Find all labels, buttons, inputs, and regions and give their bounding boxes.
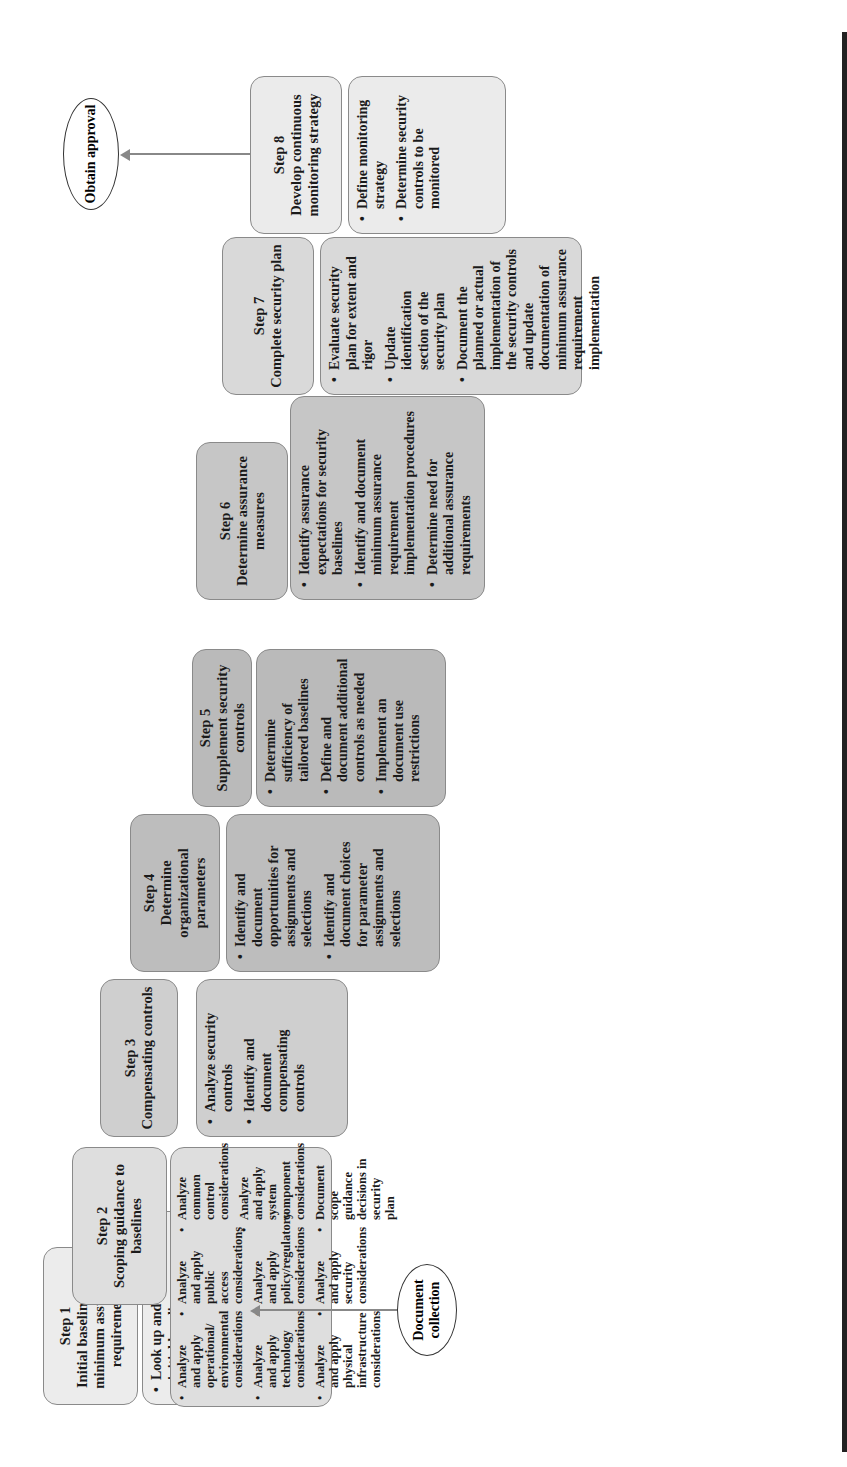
step-5-header: Step 5 Supplement security controls xyxy=(192,649,252,807)
step-number: Step 1 xyxy=(57,1307,74,1345)
task-item: Document the planned or actual implement… xyxy=(455,246,604,382)
task-item: Identify and document minimum assurance … xyxy=(353,405,419,587)
document-collection-node: Document collection xyxy=(397,1264,457,1356)
step-number: Step 6 xyxy=(217,502,234,540)
step-2-tasks: Analyze and apply operational/ environme… xyxy=(170,1147,332,1407)
obtain-approval-node: Obtain approval xyxy=(63,98,119,210)
node-label: Document collection xyxy=(411,1265,443,1355)
task-item: Analyze security controls xyxy=(203,988,236,1124)
step-3-header: Step 3 Compensating controls xyxy=(100,979,178,1137)
task-item: Analyze and apply operational/ environme… xyxy=(175,1322,245,1400)
step-3-tasks: Analyze security controls Identify and d… xyxy=(196,979,348,1137)
task-item: Identify assurance expectations for secu… xyxy=(297,405,347,587)
step-6-header: Step 6 Determine assurance measures xyxy=(196,442,288,600)
task-item: Update identification section of the sec… xyxy=(383,246,449,382)
task-item: Analyze and apply system component consi… xyxy=(237,1154,307,1232)
arrow-head-icon xyxy=(120,149,130,161)
step-number: Step 5 xyxy=(197,709,214,747)
step-title: Scoping guidance to baselines xyxy=(111,1148,145,1304)
task-item: Define monitoring strategy xyxy=(355,85,388,221)
step-8-header: Step 8 Develop continuous monitoring str… xyxy=(250,76,342,234)
connector-line xyxy=(130,154,250,156)
step-number: Step 7 xyxy=(251,297,268,335)
task-item: Document scope guidance decisions in sec… xyxy=(313,1154,397,1232)
task-item: Determine sufficiency of tailored baseli… xyxy=(263,658,313,794)
arrow-head-icon xyxy=(250,1305,260,1317)
task-item: Evaluate security plan for extent and ri… xyxy=(327,246,377,382)
task-item: Analyze and apply physical infrastructur… xyxy=(313,1322,383,1400)
step-4-tasks: Identify and document opportunities for … xyxy=(226,814,440,972)
task-item: Implement an document use restrictions xyxy=(374,658,424,794)
task-item: Analyze and apply public access consider… xyxy=(175,1238,245,1316)
step-5-tasks: Determine sufficiency of tailored baseli… xyxy=(256,649,446,807)
task-item: Analyze common control considerations xyxy=(175,1154,231,1232)
step-title: Determine assurance measures xyxy=(234,443,268,599)
step-number: Step 4 xyxy=(141,874,158,912)
step-8-tasks: Define monitoring strategy Determine sec… xyxy=(348,76,506,234)
task-item: Determine need for additional assurance … xyxy=(425,405,475,587)
step-6-tasks: Identify assurance expectations for secu… xyxy=(290,396,485,600)
task-item: Determine security controls to be monito… xyxy=(394,85,444,221)
task-item: Identify and document compensating contr… xyxy=(242,988,308,1124)
task-item: Identify and document opportunities for … xyxy=(233,823,316,959)
step-number: Step 8 xyxy=(271,136,288,174)
step-2-header: Step 2 Scoping guidance to baselines xyxy=(72,1147,167,1305)
tailoring-process-diagram: Step 1 Initial baselines and minimum ass… xyxy=(0,0,847,1467)
step-number: Step 3 xyxy=(122,1039,139,1077)
task-item: Analyze and apply technology considerati… xyxy=(251,1322,307,1400)
step-7-header: Step 7 Complete security plan xyxy=(222,237,314,395)
step-7-tasks: Evaluate security plan for extent and ri… xyxy=(320,237,582,395)
task-item: Define and document additional controls … xyxy=(319,658,369,794)
step-title: Determine organizational parameters xyxy=(158,815,209,971)
task-item: Analyze and apply security consideration… xyxy=(313,1238,369,1316)
step-title: Complete security plan xyxy=(268,244,285,387)
step-title: Compensating controls xyxy=(139,987,156,1130)
connector-line xyxy=(256,1310,397,1312)
step-number: Step 2 xyxy=(94,1207,111,1245)
node-label: Obtain approval xyxy=(83,105,99,204)
step-4-header: Step 4 Determine organizational paramete… xyxy=(130,814,220,972)
step-title: Develop continuous monitoring strategy xyxy=(288,77,322,233)
task-item: Identify and document choices for parame… xyxy=(322,823,405,959)
step-title: Supplement security controls xyxy=(214,650,248,806)
